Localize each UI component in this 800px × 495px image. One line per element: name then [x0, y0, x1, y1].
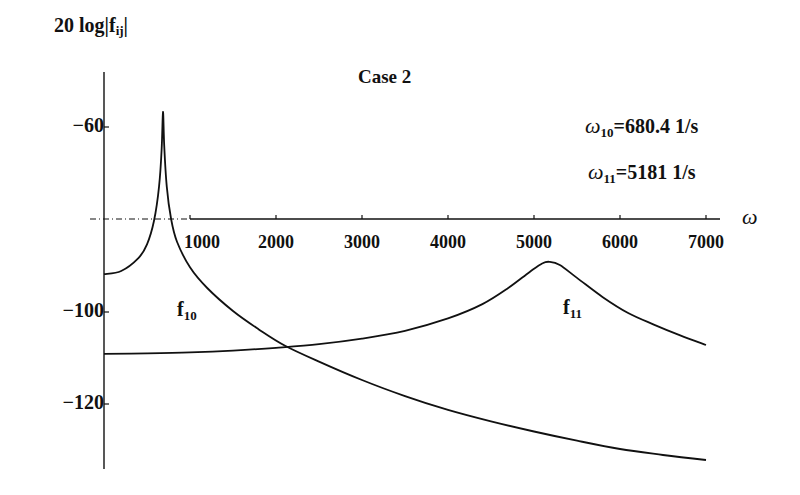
x-tick-label-3000: 3000	[327, 232, 397, 253]
curve-label-f11: f11	[563, 296, 582, 322]
y-ticks	[104, 127, 109, 404]
x-tick-label-6000: 6000	[585, 232, 655, 253]
chart-title: Case 2	[358, 66, 411, 88]
curve-label-f10: f10	[177, 298, 197, 324]
x-axis-label-omega: ω	[742, 204, 758, 230]
annotation-omega-10: ω10=680.4 1/s	[585, 113, 698, 141]
y-axis-label: 20 log|fij|	[54, 14, 128, 39]
x-tick-label-2000: 2000	[241, 232, 311, 253]
y-tick-label-minus-60: −60	[44, 114, 104, 137]
x-tick-label-5000: 5000	[499, 232, 569, 253]
y-tick-label-minus-100: −100	[44, 299, 104, 322]
x-tick-label-4000: 4000	[413, 232, 483, 253]
x-tick-label-1000: 1000	[167, 232, 237, 253]
annotation-omega-11: ω11=5181 1/s	[588, 159, 696, 187]
y-tick-label-minus-120: −120	[44, 391, 104, 414]
x-tick-label-7000: 7000	[671, 232, 741, 253]
